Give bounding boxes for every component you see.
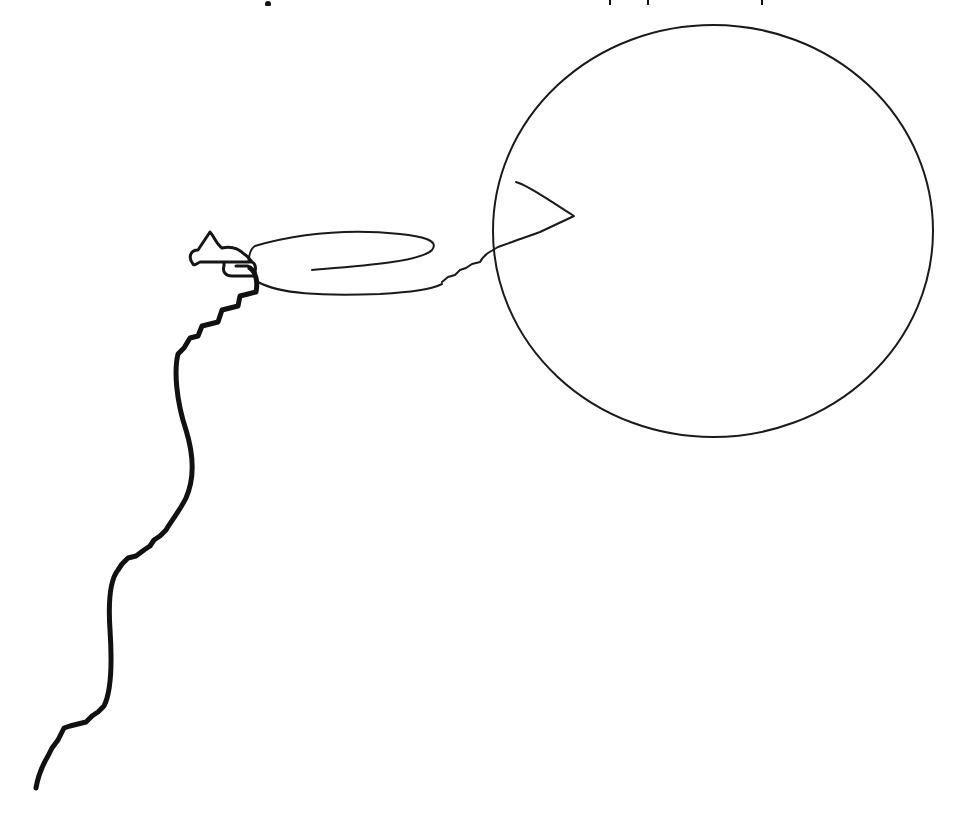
- small-blob: [190, 232, 255, 276]
- arrow-line: [442, 182, 574, 282]
- elongated-loop: [248, 232, 442, 295]
- wavy-path: [36, 268, 257, 788]
- drawing-canvas: [0, 0, 962, 827]
- large-circle: [493, 25, 933, 437]
